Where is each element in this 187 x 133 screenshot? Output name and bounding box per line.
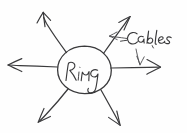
ring-letter-i [78, 72, 79, 80]
cable-right-line [111, 67, 159, 68]
cable-upper-right-line [104, 18, 129, 53]
cables-letter-a [138, 36, 144, 43]
ring-node [58, 46, 112, 93]
cable-right [111, 60, 161, 75]
cable-upper-left-line [44, 17, 67, 52]
sketch-canvas [0, 0, 187, 133]
ring-cables-diagram [0, 0, 187, 133]
cable-left-line [9, 65, 57, 67]
cable-lower-right [101, 90, 120, 125]
cables-label [121, 30, 172, 48]
cable-upper-right [104, 17, 131, 54]
cables-leader-down-arrowhead-right [140, 57, 144, 65]
cable-lower-left [38, 89, 68, 122]
cables-leader-arrow-down [136, 49, 144, 65]
cables-letter-l [155, 30, 157, 44]
cable-upper-left-arrowhead-left [37, 12, 43, 23]
ring-circle-outline [58, 46, 112, 93]
cables-label-leading-dash [121, 40, 127, 41]
cable-upper-left [37, 12, 67, 52]
cables-leader-down-arrowhead-left [137, 56, 140, 65]
cable-lower-left-line [40, 89, 68, 121]
ring-letter-R [66, 62, 76, 80]
cables-letter-b [147, 31, 153, 43]
cable-left [8, 59, 58, 72]
cables-letter-C [128, 33, 138, 44]
cable-right-arrowhead-bottom [147, 67, 161, 74]
ring-label [66, 62, 98, 93]
cable-right-arrowhead-top [147, 60, 161, 67]
ring-letter-n [81, 72, 89, 81]
cable-left-arrowhead-top [8, 59, 22, 65]
cables-label-tail-stroke [152, 46, 153, 48]
cables-letter-s [164, 37, 171, 44]
